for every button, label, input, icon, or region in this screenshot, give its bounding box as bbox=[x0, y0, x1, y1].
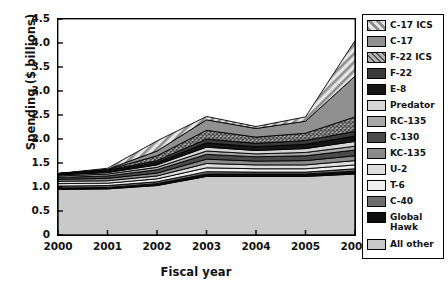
e8-swatch bbox=[367, 84, 386, 95]
legend-label: Predator bbox=[390, 99, 435, 110]
legend-label: T-6 bbox=[390, 179, 405, 190]
legend-label: C-130 bbox=[390, 131, 419, 142]
plot-area bbox=[57, 18, 356, 236]
legend-label: KC-135 bbox=[390, 147, 426, 158]
legend-item: C-17 bbox=[367, 35, 440, 50]
legend-item: F-22 ICS bbox=[367, 51, 440, 66]
stacked-area-chart bbox=[57, 18, 356, 236]
y-tick-label: 3.5 bbox=[16, 60, 50, 72]
kc135-swatch bbox=[367, 148, 386, 159]
legend-item: E-8 bbox=[367, 83, 440, 98]
legend-item: Global Hawk bbox=[367, 211, 440, 237]
legend-item: U-2 bbox=[367, 163, 440, 178]
legend-label: RC-135 bbox=[390, 115, 426, 126]
x-tick-label: 2003 bbox=[184, 240, 230, 252]
x-axis-title: Fiscal year bbox=[36, 265, 356, 279]
y-tick-label: 4.0 bbox=[16, 36, 50, 48]
rc135-swatch bbox=[367, 116, 386, 127]
legend-item: RC-135 bbox=[367, 115, 440, 130]
c17-swatch bbox=[367, 36, 386, 47]
y-tick-label: 0 bbox=[16, 228, 50, 240]
y-tick-label: 2.5 bbox=[16, 108, 50, 120]
x-tick-label: 2000 bbox=[35, 240, 81, 252]
legend-label: U-2 bbox=[390, 163, 407, 174]
legend-item: C-40 bbox=[367, 195, 440, 210]
y-tick-label: 4.5 bbox=[16, 12, 50, 24]
legend-label: C-17 bbox=[390, 35, 413, 46]
legend-item: F-22 bbox=[367, 67, 440, 82]
legend-item: Predator bbox=[367, 99, 440, 114]
legend-label: C-40 bbox=[390, 195, 413, 206]
chart-legend: C-17 ICSC-17F-22 ICSF-22E-8PredatorRC-13… bbox=[362, 14, 444, 259]
legend-label: All other bbox=[390, 238, 434, 249]
y-tick-label: 1.0 bbox=[16, 180, 50, 192]
x-tick-label: 2001 bbox=[85, 240, 131, 252]
f22-swatch bbox=[367, 68, 386, 79]
t6-swatch bbox=[367, 180, 386, 191]
x-tick-label: 2005 bbox=[283, 240, 329, 252]
legend-label: C-17 ICS bbox=[390, 19, 433, 30]
legend-item: T-6 bbox=[367, 179, 440, 194]
y-tick-label: 0.5 bbox=[16, 204, 50, 216]
legend-item: C-17 ICS bbox=[367, 19, 440, 34]
chart-figure: Spending ($ billions) Fiscal year 00.51.… bbox=[0, 0, 448, 285]
legend-label: F-22 bbox=[390, 67, 412, 78]
x-tick-label: 2002 bbox=[134, 240, 180, 252]
y-tick-label: 1.5 bbox=[16, 156, 50, 168]
allother-swatch bbox=[367, 239, 386, 250]
predator-swatch bbox=[367, 100, 386, 111]
u2-swatch bbox=[367, 164, 386, 175]
legend-item: KC-135 bbox=[367, 147, 440, 162]
f22ics-swatch bbox=[367, 52, 386, 63]
legend-label: E-8 bbox=[390, 83, 406, 94]
y-tick-label: 2.0 bbox=[16, 132, 50, 144]
legend-item: All other bbox=[367, 238, 440, 253]
legend-item: C-130 bbox=[367, 131, 440, 146]
x-tick-label: 2004 bbox=[233, 240, 279, 252]
globalhawk-swatch bbox=[367, 212, 386, 223]
legend-label: Global Hawk bbox=[390, 211, 422, 232]
c40-swatch bbox=[367, 196, 386, 207]
c130-swatch bbox=[367, 132, 386, 143]
y-tick-label: 3.0 bbox=[16, 84, 50, 96]
legend-label: F-22 ICS bbox=[390, 51, 432, 62]
c17ics-swatch bbox=[367, 20, 386, 31]
